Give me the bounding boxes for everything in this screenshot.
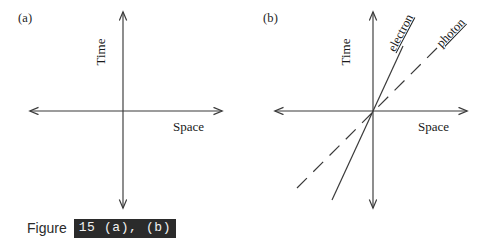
panel-a: (a) Time Space xyxy=(0,0,245,212)
photon-worldline xyxy=(297,42,443,188)
panel-a-time-label: Time xyxy=(93,39,109,66)
electron-worldline xyxy=(332,46,403,200)
caption-word: Figure xyxy=(27,220,67,236)
figure-caption: Figure 15 (a), (b) xyxy=(27,219,176,238)
caption-highlight-block: 15 (a), (b) xyxy=(74,219,176,238)
panel-b-space-label: Space xyxy=(418,119,449,135)
panel-b-time-label: Time xyxy=(338,39,354,66)
panel-a-axes xyxy=(0,0,245,212)
figure-canvas: (a) Time Space (b) xyxy=(0,0,490,250)
panel-a-space-label: Space xyxy=(173,119,204,135)
panel-b: (b) Time Space electron photon xyxy=(245,0,490,212)
